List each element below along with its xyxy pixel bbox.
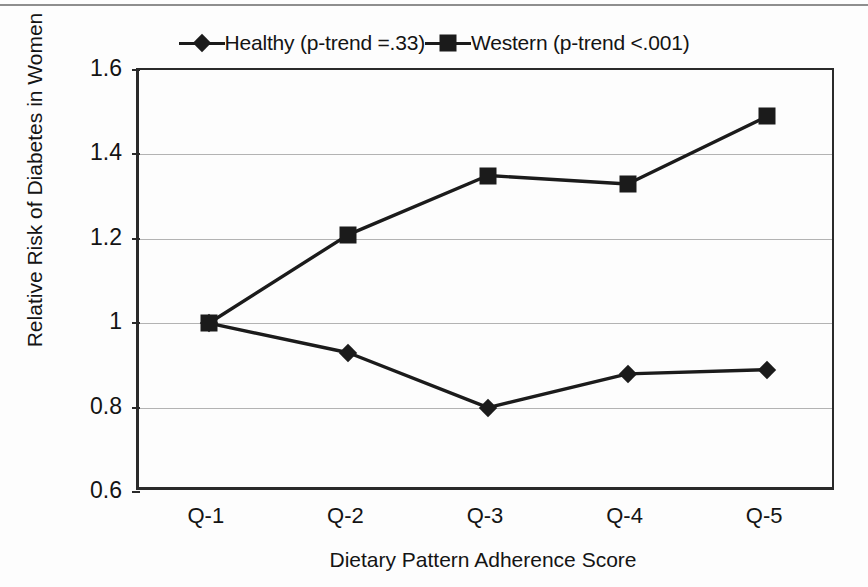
y-axis-tick-label: 1.6 [52, 55, 122, 82]
x-axis-title: Dietary Pattern Adherence Score [130, 548, 836, 572]
data-point[interactable] [480, 167, 497, 184]
y-axis-tick-label: 1 [52, 308, 122, 335]
y-axis-title: Relative Risk of Diabetes in Women [23, 0, 47, 395]
x-axis-tick-label: Q-3 [425, 503, 545, 529]
y-axis-tick-label: 1.4 [52, 139, 122, 166]
y-axis-tick-label: 1.2 [52, 223, 122, 250]
data-point[interactable] [619, 175, 636, 192]
data-point[interactable] [339, 344, 357, 362]
y-axis-tick-label: 0.8 [52, 392, 122, 419]
chart-figure: Healthy (p-trend =.33) Western (p-trend … [0, 0, 868, 587]
x-axis-tick-label: Q-1 [146, 503, 266, 529]
y-axis-tick-label: 0.6 [52, 477, 122, 504]
x-axis-tick-label: Q-2 [285, 503, 405, 529]
y-axis-tick-labels: 0.60.811.21.41.6 [52, 0, 122, 587]
data-point[interactable] [200, 315, 217, 332]
data-point[interactable] [340, 226, 357, 243]
x-axis-tick-label: Q-4 [565, 503, 685, 529]
plot-wrapper: Relative Risk of Diabetes in Women 0.60.… [0, 0, 868, 587]
data-point[interactable] [758, 360, 776, 378]
data-point-layer [139, 70, 832, 487]
plot-area [136, 68, 834, 490]
x-axis-tick-label: Q-5 [704, 503, 824, 529]
data-point[interactable] [479, 398, 497, 416]
data-point[interactable] [618, 365, 636, 383]
data-point[interactable] [759, 108, 776, 125]
